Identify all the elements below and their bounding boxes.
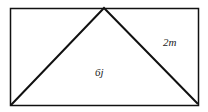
- outer-rectangle: [11, 9, 199, 106]
- diagram-canvas: 2m 6j: [0, 0, 208, 112]
- triangle-area-label: 6j: [95, 66, 104, 78]
- inscribed-triangle: [11, 8, 198, 105]
- side-label: 2m: [163, 36, 177, 48]
